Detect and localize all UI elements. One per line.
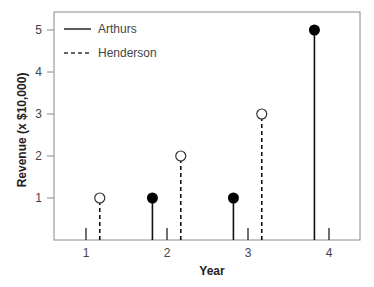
legend-label-arthurs: Arthurs: [98, 22, 137, 36]
x-tick-label: 2: [164, 246, 171, 260]
y-axis: 12345: [35, 23, 54, 205]
series-henderson: [95, 109, 267, 240]
filled-circle-marker: [147, 193, 158, 204]
x-tick-label: 1: [83, 246, 90, 260]
open-circle-marker: [95, 193, 105, 203]
y-tick-label: 4: [35, 65, 42, 79]
x-axis-title: Year: [199, 264, 225, 278]
x-tick-label: 4: [326, 246, 333, 260]
series-arthurs: [147, 25, 320, 241]
stem-chart: 12345 1234 Arthurs Henderson Year Revenu…: [0, 0, 374, 287]
x-axis: 1234: [83, 228, 333, 260]
y-tick-label: 5: [35, 23, 42, 37]
filled-circle-marker: [309, 25, 320, 36]
x-tick-label: 3: [245, 246, 252, 260]
y-tick-label: 2: [35, 149, 42, 163]
filled-circle-marker: [228, 193, 239, 204]
y-axis-title: Revenue (x $10,000): [15, 73, 29, 188]
legend-label-henderson: Henderson: [98, 46, 157, 60]
open-circle-marker: [257, 109, 267, 119]
y-tick-label: 3: [35, 107, 42, 121]
legend: Arthurs Henderson: [64, 22, 157, 60]
y-tick-label: 1: [35, 191, 42, 205]
open-circle-marker: [176, 151, 186, 161]
